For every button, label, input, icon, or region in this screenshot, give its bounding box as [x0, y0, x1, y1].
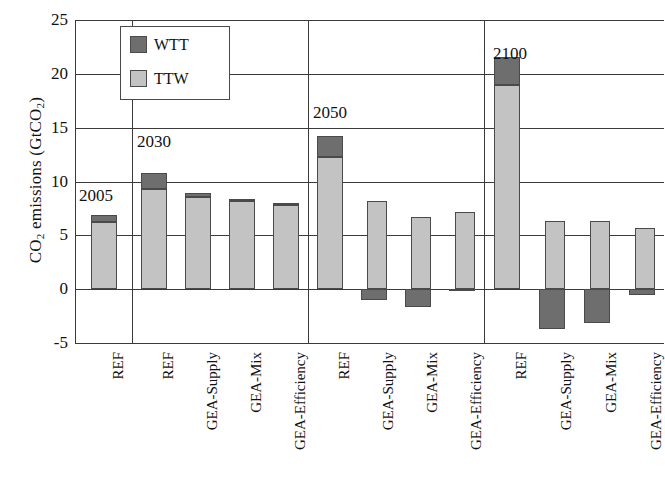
bar-group: [449, 20, 475, 343]
y-tick-label: 10: [28, 173, 68, 190]
bar-segment-ttw: [229, 201, 255, 289]
bar-group: [317, 20, 343, 343]
bar-segment-ttw: [494, 85, 520, 290]
bar-group: [273, 20, 299, 343]
x-tick-label: REF: [160, 352, 177, 380]
y-tick-label: -5: [28, 334, 68, 351]
legend: WTT TTW: [120, 26, 230, 100]
bar-segment-wtt: [629, 289, 655, 294]
bar-segment-ttw: [367, 201, 387, 289]
group-year-label: 2050: [313, 103, 347, 123]
y-tick-label: 20: [28, 65, 68, 82]
x-tick-label: GEA-Mix: [248, 352, 265, 413]
legend-swatch-ttw-icon: [130, 70, 147, 87]
bar-segment-ttw: [635, 228, 655, 289]
x-tick-label: GEA-Mix: [603, 352, 620, 413]
bar-segment-wtt: [141, 173, 167, 189]
x-tick-label: REF: [110, 352, 127, 380]
bar-group: [361, 20, 387, 343]
y-tick-label: 5: [28, 226, 68, 243]
x-tick-label: GEA-Supply: [204, 352, 221, 430]
group-year-label: 2005: [79, 186, 113, 206]
bar-segment-wtt: [317, 136, 343, 156]
bar-segment-ttw: [545, 221, 565, 289]
bar-group: [405, 20, 431, 343]
gridline-horizontal: [75, 343, 664, 344]
bar-segment-ttw: [411, 217, 431, 289]
y-axis-title-sub2: 2: [34, 103, 46, 109]
x-tick-label: GEA-Mix: [424, 352, 441, 413]
bar-group: [91, 20, 117, 343]
bar-segment-ttw: [91, 222, 117, 289]
bar-segment-ttw: [141, 189, 167, 289]
bar-group: [229, 20, 255, 343]
group-year-label: 2100: [493, 44, 527, 64]
x-tick-label: REF: [513, 352, 530, 380]
legend-label-wtt: WTT: [154, 37, 189, 53]
bar-group: [629, 20, 655, 343]
bar-segment-wtt: [449, 289, 475, 291]
group-separator-line: [484, 20, 485, 343]
x-tick-label: GEA-Efficiency: [648, 352, 665, 450]
bar-segment-wtt: [361, 289, 387, 300]
y-tick-label: 25: [28, 11, 68, 28]
legend-label-ttw: TTW: [154, 71, 189, 87]
group-separator-line: [75, 20, 76, 343]
bar-segment-ttw: [185, 197, 211, 290]
x-tick-label: GEA-Efficiency: [292, 352, 309, 450]
bar-segment-wtt: [405, 289, 431, 307]
bar-segment-wtt: [584, 289, 610, 322]
bar-segment-ttw: [590, 221, 610, 289]
bar-group: [539, 20, 565, 343]
x-tick-label: GEA-Supply: [558, 352, 575, 430]
bar-segment-ttw: [273, 205, 299, 289]
legend-item-ttw: TTW: [130, 70, 189, 87]
legend-swatch-wtt-icon: [130, 36, 147, 53]
x-tick-label: GEA-Efficiency: [468, 352, 485, 450]
x-tick-label: REF: [336, 352, 353, 380]
bar-segment-ttw: [455, 212, 475, 290]
bar-segment-ttw: [317, 157, 343, 289]
y-axis-title-post: ): [26, 97, 45, 103]
bar-group: [584, 20, 610, 343]
x-tick-label: GEA-Supply: [380, 352, 397, 430]
bar-group: [494, 20, 520, 343]
group-year-label: 2030: [137, 132, 171, 152]
legend-item-wtt: WTT: [130, 36, 189, 53]
y-tick-label: 15: [28, 119, 68, 136]
bar-segment-wtt: [539, 289, 565, 329]
y-tick-label: 0: [28, 280, 68, 297]
bar-segment-wtt: [91, 215, 117, 223]
group-separator-line: [308, 20, 309, 343]
